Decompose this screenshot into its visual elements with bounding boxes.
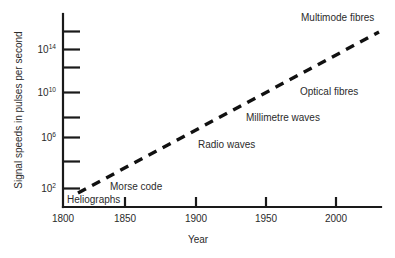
signal-speeds-chart: 1014 1010 106 102 1800 1850 1900 1950 20… [0,0,395,258]
y-tick-label-10-10: 1010 [38,86,57,98]
annotation-millimetre-waves: Millimetre waves [246,112,320,123]
x-tick-label-1800: 1800 [52,213,75,224]
axes-group [63,14,381,207]
y-axis-tick-labels: 1014 1010 106 102 [38,43,57,194]
trend-dashed-line [78,32,379,193]
x-tick-label-1950: 1950 [255,213,278,224]
chart-canvas: 1014 1010 106 102 1800 1850 1900 1950 20… [0,0,395,258]
annotation-optical-fibres: Optical fibres [300,86,358,97]
y-axis-ticks [63,32,80,189]
annotation-heliographs: Heliographs [67,194,120,205]
y-tick-label-10-2: 102 [41,182,56,194]
x-axis-title: Year [188,234,209,245]
annotation-morse-code: Morse code [110,181,163,192]
x-axis-tick-labels: 1800 1850 1900 1950 2000 [52,213,348,224]
y-tick-label-10-14: 1014 [38,43,57,55]
y-axis-title: Signal speeds in pulses per second [13,31,24,188]
annotation-multimode-fibres: Multimode fibres [301,12,374,23]
x-tick-label-1900: 1900 [185,213,208,224]
annotation-radio-waves: Radio waves [198,139,255,150]
x-axis-ticks [125,197,336,207]
x-tick-label-1850: 1850 [114,213,137,224]
y-tick-label-10-6: 106 [41,131,56,143]
x-tick-label-2000: 2000 [325,213,348,224]
